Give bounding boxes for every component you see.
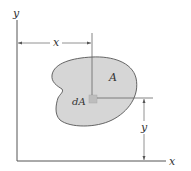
x-dimension-label: x <box>53 36 60 49</box>
y-dimension-arrow-top <box>143 99 146 103</box>
y-axis-label: y <box>12 7 20 20</box>
da-label: dA <box>72 96 86 107</box>
da-element <box>89 95 97 103</box>
region-a-shape <box>52 57 137 126</box>
area-element-diagram: y x A dA x y <box>0 0 191 171</box>
y-dimension-arrow-bottom <box>143 156 146 160</box>
x-dimension-arrow-left <box>18 42 22 45</box>
x-axis-label: x <box>169 155 176 168</box>
x-dimension-arrow-right <box>87 42 91 45</box>
y-dimension-label: y <box>140 121 148 134</box>
region-a-label: A <box>108 71 117 84</box>
